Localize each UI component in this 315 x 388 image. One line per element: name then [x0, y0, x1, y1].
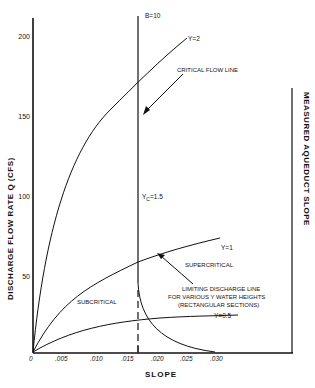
curve-y05: [33, 315, 238, 352]
x-tick-025: .025: [180, 355, 193, 362]
limiting-label-line2: FOR VARIOUS Y WATER HEIGHTS: [168, 294, 265, 300]
x-axis-label: SLOPE: [145, 370, 177, 379]
subcritical-label: SUBCRITICAL: [77, 299, 117, 305]
y2-label: Y=2: [188, 35, 200, 42]
x-tick-0: 0: [29, 355, 33, 362]
measured-slope-label: MEASURED AQUEDUCT SLOPE: [302, 92, 311, 226]
critical-arrow: [146, 74, 183, 111]
y05-label: Y=0.5: [214, 312, 231, 319]
y-axis-label: DISCHARGE FLOW RATE Q (CFS): [6, 157, 15, 300]
limiting-label-line1: LIMITING DISCHARGE LINE: [182, 286, 260, 292]
b10-label: B=10: [145, 12, 160, 19]
x-tick-015: .015: [121, 355, 134, 362]
yc-label: YC=1.5: [142, 193, 163, 202]
limiting-arrow: [161, 256, 193, 284]
y-tick-200: 200: [10, 33, 30, 40]
x-tick-010: .010: [90, 355, 103, 362]
x-tick-020: .020: [151, 355, 164, 362]
supercritical-label: SUPERCRITICAL: [185, 262, 233, 268]
y-tick-150: 150: [10, 113, 30, 120]
x-tick-005: .005: [55, 355, 68, 362]
y1-label: Y=1: [221, 244, 233, 251]
critical-flow-label: CRITICAL FLOW LINE: [177, 67, 238, 73]
limiting-label-line3: (RECTANGULAR SECTIONS): [178, 302, 259, 308]
x-tick-030: .030: [210, 355, 223, 362]
